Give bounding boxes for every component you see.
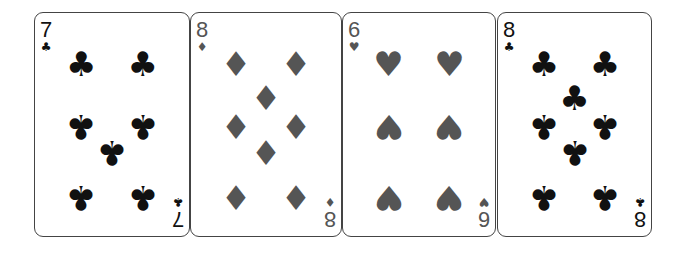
- club-pip-icon: ♣: [64, 47, 98, 81]
- rank-label: 8: [196, 19, 208, 41]
- club-pip-icon: ♣: [588, 47, 622, 81]
- heart-pip-icon: ♥: [432, 181, 466, 215]
- rank-label: 8: [324, 208, 336, 230]
- rank-label: 8: [503, 19, 515, 41]
- diamond-pip-icon: ♦: [249, 81, 283, 115]
- club-icon: ♣: [173, 196, 184, 208]
- rank-label: 6: [348, 19, 360, 41]
- club-pip-icon: ♣: [558, 81, 592, 115]
- diamond-pip-icon: ♦: [219, 110, 253, 144]
- club-icon: ♣: [635, 196, 646, 208]
- heart-icon: ♥: [349, 41, 360, 53]
- corner-index-top-left: 6♥: [348, 19, 360, 53]
- club-pip-icon: ♣: [126, 110, 160, 144]
- diamond-pip-icon: ♦: [249, 136, 283, 170]
- corner-index-top-left: 8♦: [196, 19, 208, 53]
- diamond-pip-icon: ♦: [219, 47, 253, 81]
- club-pip-icon: ♣: [64, 110, 98, 144]
- club-pip-icon: ♣: [527, 181, 561, 215]
- diamond-icon: ♦: [325, 196, 336, 208]
- club-pip-icon: ♣: [558, 136, 592, 170]
- heart-icon: ♥: [479, 196, 490, 208]
- heart-pip-icon: ♥: [432, 110, 466, 144]
- club-pip-icon: ♣: [95, 136, 129, 170]
- corner-index-bottom-right: 7♣: [172, 196, 184, 230]
- diamond-pip-icon: ♦: [279, 110, 313, 144]
- club-pip-icon: ♣: [527, 47, 561, 81]
- club-icon: ♣: [504, 41, 515, 53]
- club-pip-icon: ♣: [64, 181, 98, 215]
- corner-index-bottom-right: 6♥: [478, 196, 490, 230]
- heart-pip-icon: ♥: [432, 47, 466, 81]
- diamond-pip-icon: ♦: [279, 181, 313, 215]
- corner-index-top-left: 7♣: [40, 19, 52, 53]
- club-pip-icon: ♣: [588, 110, 622, 144]
- rank-label: 6: [478, 208, 490, 230]
- rank-label: 7: [40, 19, 52, 41]
- diamond-pip-icon: ♦: [279, 47, 313, 81]
- heart-pip-icon: ♥: [372, 47, 406, 81]
- club-pip-icon: ♣: [126, 47, 160, 81]
- playing-card-8-of-clubs[interactable]: 8♣8♣♣♣♣♣♣♣♣♣: [497, 12, 652, 237]
- corner-index-top-left: 8♣: [503, 19, 515, 53]
- corner-index-bottom-right: 8♦: [324, 196, 336, 230]
- rank-label: 7: [172, 208, 184, 230]
- playing-card-8-of-diamonds[interactable]: 8♦8♦♦♦♦♦♦♦♦♦: [190, 12, 342, 237]
- heart-pip-icon: ♥: [372, 110, 406, 144]
- heart-pip-icon: ♥: [372, 181, 406, 215]
- corner-index-bottom-right: 8♣: [634, 196, 646, 230]
- club-pip-icon: ♣: [588, 181, 622, 215]
- club-pip-icon: ♣: [527, 110, 561, 144]
- diamond-icon: ♦: [197, 41, 208, 53]
- club-icon: ♣: [41, 41, 52, 53]
- playing-card-7-of-clubs[interactable]: 7♣7♣♣♣♣♣♣♣♣: [34, 12, 190, 237]
- rank-label: 8: [634, 208, 646, 230]
- diamond-pip-icon: ♦: [219, 181, 253, 215]
- playing-card-6-of-hearts[interactable]: 6♥6♥♥♥♥♥♥♥: [342, 12, 496, 237]
- club-pip-icon: ♣: [126, 181, 160, 215]
